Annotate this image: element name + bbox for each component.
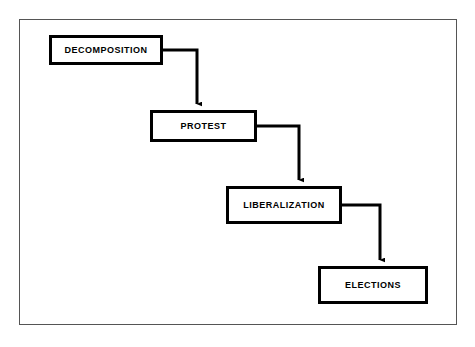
- node-liberalization[interactable]: LIBERALIZATION: [226, 186, 342, 224]
- node-elections[interactable]: ELECTIONS: [318, 266, 428, 304]
- node-protest[interactable]: PROTEST: [150, 110, 257, 142]
- node-decomposition[interactable]: DECOMPOSITION: [49, 35, 163, 65]
- node-protest-label: PROTEST: [180, 122, 226, 131]
- diagram-canvas: DECOMPOSITION PROTEST LIBERALIZATION ELE…: [0, 0, 475, 347]
- node-elections-label: ELECTIONS: [345, 281, 401, 290]
- node-liberalization-label: LIBERALIZATION: [243, 201, 324, 210]
- node-decomposition-label: DECOMPOSITION: [64, 46, 147, 55]
